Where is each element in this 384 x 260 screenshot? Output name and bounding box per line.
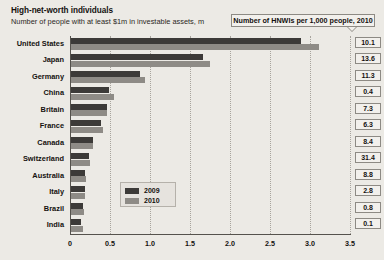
legend-swatch-2010 xyxy=(125,198,139,204)
bar-row xyxy=(70,53,350,70)
annotation-value-box: 0.4 xyxy=(355,86,381,97)
bar-2009 xyxy=(71,219,81,225)
plot-area xyxy=(70,36,350,234)
annotation-value-box: 7.3 xyxy=(355,103,381,114)
callout-pointer-inner-icon xyxy=(348,27,356,31)
annotation-value-label: 0.1 xyxy=(363,220,373,227)
x-tick-label: 1.5 xyxy=(175,239,205,248)
category-label: Germany xyxy=(0,72,64,81)
category-label: France xyxy=(0,121,64,130)
annotation-value-box: 11.3 xyxy=(355,70,381,81)
bar-row xyxy=(70,102,350,119)
bar-2009 xyxy=(71,186,85,192)
bar-2010 xyxy=(71,94,114,100)
x-tick-label: 3.0 xyxy=(295,239,325,248)
gridline xyxy=(350,36,351,234)
annotation-value-box: 0.8 xyxy=(355,202,381,213)
annotation-value-label: 31.4 xyxy=(361,154,375,161)
category-label: United States xyxy=(0,39,64,48)
category-label: Italy xyxy=(0,187,64,196)
annotation-value-box: 6.3 xyxy=(355,119,381,130)
x-tick-label: 1.0 xyxy=(135,239,165,248)
category-label: India xyxy=(0,220,64,229)
annotation-value-box: 2.8 xyxy=(355,185,381,196)
annotation-value-box: 31.4 xyxy=(355,152,381,163)
annotation-value-box: 10.1 xyxy=(355,37,381,48)
legend-swatch-2009 xyxy=(125,188,139,194)
bar-2010 xyxy=(71,110,107,116)
annotation-header-label: Number of HNWIs per 1,000 people, 2010 xyxy=(233,16,372,25)
legend-item-2009: 2009 xyxy=(125,186,171,195)
bar-2009 xyxy=(71,137,93,143)
annotation-value-box: 0.1 xyxy=(355,218,381,229)
annotation-value-label: 2.8 xyxy=(363,187,373,194)
category-label: Australia xyxy=(0,171,64,180)
x-tick-label: 0.5 xyxy=(95,239,125,248)
annotation-header-box: Number of HNWIs per 1,000 people, 2010 xyxy=(231,14,375,27)
annotation-value-label: 6.3 xyxy=(363,121,373,128)
bar-row xyxy=(70,201,350,218)
bar-2010 xyxy=(71,209,84,215)
annotation-value-label: 8.4 xyxy=(363,138,373,145)
annotation-value-label: 7.3 xyxy=(363,105,373,112)
bar-2010 xyxy=(71,160,90,166)
bar-2010 xyxy=(71,176,86,182)
chart-subtitle: Number of people with at least $1m in in… xyxy=(11,17,204,26)
bar-row xyxy=(70,36,350,53)
bar-2010 xyxy=(71,77,145,83)
x-axis-line xyxy=(70,234,351,235)
legend: 2009 2010 xyxy=(120,182,176,207)
legend-label-2009: 2009 xyxy=(144,187,160,194)
category-label: Britain xyxy=(0,105,64,114)
x-tick-label: 0 xyxy=(55,239,85,248)
bar-2010 xyxy=(71,127,103,133)
annotation-value-label: 10.1 xyxy=(361,39,375,46)
bar-2009 xyxy=(71,87,109,93)
annotation-value-label: 13.6 xyxy=(361,55,375,62)
category-label: Canada xyxy=(0,138,64,147)
bar-row xyxy=(70,135,350,152)
bar-2009 xyxy=(71,54,203,60)
page-title: High-net-worth individuals xyxy=(11,6,113,15)
legend-label-2010: 2010 xyxy=(144,197,160,204)
bar-2009 xyxy=(71,170,85,176)
category-label: China xyxy=(0,88,64,97)
annotation-value-label: 0.4 xyxy=(363,88,373,95)
bar-row xyxy=(70,86,350,103)
bar-2010 xyxy=(71,193,85,199)
annotation-value-label: 8.8 xyxy=(363,171,373,178)
x-tick-label: 3.5 xyxy=(335,239,365,248)
chart-container: High-net-worth individuals Number of peo… xyxy=(0,0,384,260)
bar-2010 xyxy=(71,44,319,50)
annotation-value-box: 13.6 xyxy=(355,53,381,64)
bar-2009 xyxy=(71,104,107,110)
bar-row xyxy=(70,218,350,235)
legend-item-2010: 2010 xyxy=(125,196,171,205)
bar-row xyxy=(70,168,350,185)
annotation-value-box: 8.4 xyxy=(355,136,381,147)
bar-row xyxy=(70,185,350,202)
annotation-value-label: 0.8 xyxy=(363,204,373,211)
bar-2010 xyxy=(71,226,83,232)
category-label: Brazil xyxy=(0,204,64,213)
x-tick-label: 2.0 xyxy=(215,239,245,248)
category-label: Japan xyxy=(0,55,64,64)
category-label: Switzerland xyxy=(0,154,64,163)
bar-row xyxy=(70,69,350,86)
bar-2009 xyxy=(71,153,89,159)
bar-2010 xyxy=(71,143,93,149)
bar-2009 xyxy=(71,120,101,126)
annotation-value-label: 11.3 xyxy=(361,72,374,79)
bar-2010 xyxy=(71,61,210,67)
bar-row xyxy=(70,119,350,136)
bar-2009 xyxy=(71,71,140,77)
x-tick-label: 2.5 xyxy=(255,239,285,248)
bar-2009 xyxy=(71,203,83,209)
bar-2009 xyxy=(71,38,301,44)
annotation-value-box: 8.8 xyxy=(355,169,381,180)
bar-row xyxy=(70,152,350,169)
